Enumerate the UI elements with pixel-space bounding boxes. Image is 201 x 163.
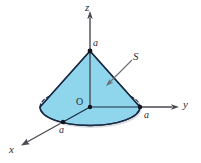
cone-figure-canvas — [0, 0, 201, 163]
origin-point — [88, 105, 92, 109]
y-radius-label: a — [144, 110, 149, 120]
cone-figure: z y x a a a O S — [0, 0, 201, 163]
cone-height-label: a — [93, 38, 98, 48]
surface-label: S — [133, 51, 139, 62]
y-axis-label: y — [183, 99, 188, 110]
x-radius-label: a — [59, 125, 64, 135]
origin-label: O — [76, 97, 83, 107]
y-axis-arrowhead — [171, 104, 179, 110]
y-radius-point — [138, 105, 142, 109]
surface-leader-line — [110, 60, 132, 82]
z-axis-label: z — [85, 2, 89, 13]
x-axis-label: x — [9, 144, 14, 155]
apex-point — [88, 49, 93, 54]
x-axis-arrowhead — [21, 139, 30, 146]
